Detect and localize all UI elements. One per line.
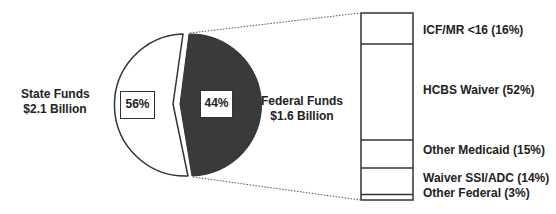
breakdown-bar xyxy=(361,13,413,200)
segment-label-icf-mr: ICF/MR <16 (16%) xyxy=(423,23,523,38)
federal-percent-box: 44% xyxy=(200,90,233,118)
federal-funds-label: Federal Funds $1.6 Billion xyxy=(256,94,348,124)
segment-label-other-federal: Other Federal (3%) xyxy=(423,186,530,201)
segment-label-other-medicaid: Other Medicaid (15%) xyxy=(423,143,545,158)
segment-label-hcbs-waiver: HCBS Waiver (52%) xyxy=(423,83,535,98)
state-funds-title: State Funds xyxy=(21,87,89,102)
state-funds-label: State Funds $2.1 Billion xyxy=(21,87,89,117)
state-percent-box: 56% xyxy=(120,91,155,119)
connector-bottom xyxy=(193,177,360,200)
connector-top xyxy=(190,13,360,33)
state-funds-amount: $2.1 Billion xyxy=(21,102,89,117)
segment-label-waiver-ssi-adc: Waiver SSI/ADC (14%) xyxy=(423,171,549,186)
federal-funds-amount: $1.6 Billion xyxy=(256,109,348,124)
federal-funds-title: Federal Funds xyxy=(256,94,348,109)
